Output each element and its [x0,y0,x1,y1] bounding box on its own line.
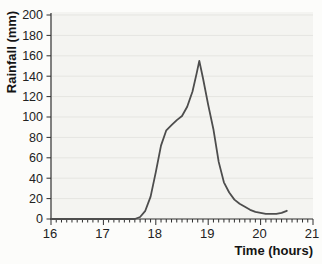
x-axis-title: Time (hours) [235,243,314,258]
x-tick-label-16: 16 [43,226,57,241]
y-tick-label-80: 80 [29,131,43,145]
y-tick-label-40: 40 [29,172,43,186]
x-tick-label-17: 17 [95,226,109,241]
y-tick-label-100: 100 [22,110,43,124]
y-tick-label-20: 20 [29,192,43,206]
y-tick-label-140: 140 [22,70,43,84]
chart-canvas: 020406080100120140160180200161718192021 [0,0,322,264]
rainfall-chart-figure: 020406080100120140160180200161718192021 … [0,0,322,264]
y-tick-label-160: 160 [22,49,43,63]
x-tick-label-18: 18 [148,226,162,241]
y-tick-label-60: 60 [29,151,43,165]
x-tick-label-20: 20 [252,226,266,241]
y-tick-label-0: 0 [36,212,43,226]
y-tick-label-200: 200 [22,8,43,22]
y-axis-title: Rainfall (mm) [4,11,19,93]
y-tick-label-180: 180 [22,29,43,43]
x-tick-label-21: 21 [305,226,319,241]
y-tick-label-120: 120 [22,90,43,104]
x-tick-label-19: 19 [200,226,214,241]
